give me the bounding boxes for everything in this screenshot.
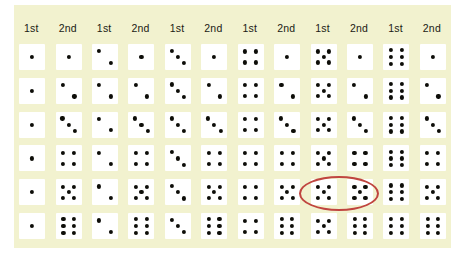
die-second-3-6 <box>201 213 227 239</box>
die-pip <box>290 151 294 155</box>
die-pip <box>61 217 65 221</box>
die-second-1-3 <box>56 112 82 138</box>
die-pip <box>72 231 76 235</box>
die-second-3-2 <box>201 78 227 104</box>
outcome-cell-6-5 <box>378 175 451 209</box>
die-pip <box>182 196 186 200</box>
dice-row <box>14 74 451 108</box>
die-pip <box>321 55 325 59</box>
header-label-first-die-3: 1st <box>170 23 185 34</box>
die-pip <box>217 231 221 235</box>
die-pip <box>133 116 137 120</box>
header-label-second-die-4: 2nd <box>277 23 295 34</box>
header-pair-1: 1st2nd <box>14 20 87 36</box>
die-pip <box>170 218 174 222</box>
die-pip <box>243 117 247 121</box>
die-pip <box>67 122 71 126</box>
die-pip <box>170 150 174 154</box>
die-pip <box>363 224 367 228</box>
die-pip <box>352 116 356 120</box>
die-pip <box>327 185 331 189</box>
die-pip <box>67 190 71 194</box>
die-pip <box>254 185 258 189</box>
die-pip <box>207 217 211 221</box>
die-first-4-4 <box>238 145 264 171</box>
die-pip <box>109 162 113 166</box>
die-pip <box>146 129 150 133</box>
die-second-1-6 <box>56 213 82 239</box>
die-pip <box>436 217 440 221</box>
die-pip <box>218 151 222 155</box>
die-first-5-6 <box>311 213 337 239</box>
die-first-2-3 <box>92 112 118 138</box>
die-pip <box>139 122 143 126</box>
column-header-row: 1st2nd1st2nd1st2nd1st2nd1st2nd1st2nd <box>14 20 451 36</box>
die-pip <box>61 196 65 200</box>
die-pip <box>291 129 295 133</box>
die-pip <box>254 60 258 64</box>
outcome-cell-4-1 <box>232 40 305 74</box>
outcome-cell-6-4 <box>378 141 451 175</box>
die-pip <box>61 83 65 87</box>
die-pip <box>437 129 441 133</box>
die-pip <box>285 122 289 126</box>
die-pip <box>254 151 258 155</box>
die-pip <box>352 162 356 166</box>
die-first-6-4 <box>383 145 409 171</box>
outcome-cell-5-6 <box>305 209 378 243</box>
die-second-4-4 <box>274 145 300 171</box>
die-pip <box>399 231 403 235</box>
die-first-6-5 <box>383 179 409 205</box>
die-first-5-3 <box>311 112 337 138</box>
die-pip <box>182 230 186 234</box>
die-pip <box>134 185 138 189</box>
die-pip <box>134 162 138 166</box>
die-pip <box>291 94 295 98</box>
die-pip <box>316 218 320 222</box>
outcome-cell-6-6 <box>378 209 451 243</box>
die-second-5-5 <box>347 179 373 205</box>
die-pip <box>425 196 429 200</box>
die-pip <box>134 151 138 155</box>
die-pip <box>212 122 216 126</box>
die-pip <box>353 224 357 228</box>
die-second-2-4 <box>128 145 154 171</box>
die-pip <box>399 224 403 228</box>
die-second-1-2 <box>56 78 82 104</box>
die-pip <box>316 94 320 98</box>
die-pip <box>254 94 258 98</box>
die-pip <box>61 185 65 189</box>
die-first-4-3 <box>238 112 264 138</box>
die-pip <box>134 217 138 221</box>
header-label-second-die-6: 2nd <box>423 23 441 34</box>
die-pip <box>321 122 325 126</box>
die-pip <box>280 224 284 228</box>
die-pip <box>97 49 101 53</box>
die-pip <box>30 156 34 160</box>
die-pip <box>436 162 440 166</box>
die-pip <box>389 231 393 235</box>
outcome-cell-1-2 <box>14 74 87 108</box>
die-second-4-5 <box>274 179 300 205</box>
die-pip <box>280 217 284 221</box>
die-pip <box>176 224 180 228</box>
die-second-1-5 <box>56 179 82 205</box>
die-pip <box>254 128 258 132</box>
die-pip <box>399 156 403 160</box>
die-pip <box>254 162 258 166</box>
die-pip <box>145 217 149 221</box>
dice-row <box>14 40 451 74</box>
die-pip <box>389 156 393 160</box>
die-first-2-5 <box>92 179 118 205</box>
die-pip <box>352 196 356 200</box>
die-pip <box>358 122 362 126</box>
die-pip <box>358 190 362 194</box>
die-second-6-5 <box>420 179 446 205</box>
header-label-second-die-3: 2nd <box>204 23 222 34</box>
die-pip <box>145 196 149 200</box>
die-pip <box>316 60 320 64</box>
die-first-2-4 <box>92 145 118 171</box>
die-pip <box>290 231 294 235</box>
die-pip <box>290 185 294 189</box>
die-pip <box>425 185 429 189</box>
